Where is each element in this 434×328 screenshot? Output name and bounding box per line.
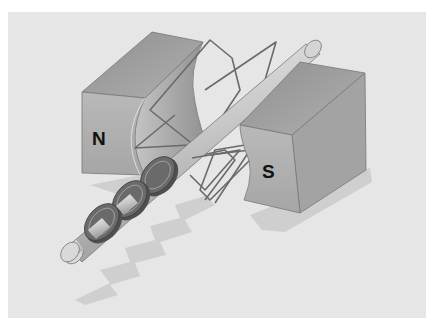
south-pole-label: S	[262, 161, 275, 182]
diagram-stage: N S	[0, 0, 434, 328]
generator-diagram: N S	[0, 0, 434, 328]
north-pole-label: N	[92, 128, 106, 149]
